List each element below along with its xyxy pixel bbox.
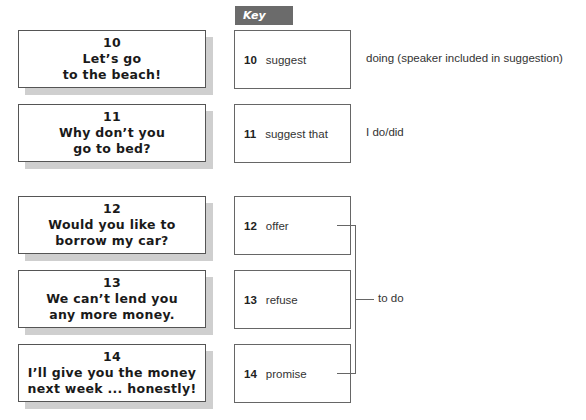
key-verb: promise [266,368,307,380]
card-number: 14 [103,349,121,365]
card-line: any more money. [49,307,175,323]
key-number: 12 [244,220,257,232]
key-item-11: 11 suggest that [234,104,351,163]
card-line: to the beach! [63,67,161,83]
key-verb: suggest [266,54,306,66]
key-number: 11 [244,128,256,140]
key-item-10: 10 suggest [234,30,351,89]
key-number: 10 [244,54,257,66]
note-11: I do/did [366,126,404,138]
note-10: doing (speaker included in suggestion) [366,52,563,64]
card-line: next week ... honestly! [28,381,197,397]
card-number: 13 [103,275,121,291]
key-number: 14 [244,368,257,380]
speech-card-13: 13 We can’t lend you any more money. [18,270,206,328]
card-number: 10 [103,35,121,51]
speech-card-12: 12 Would you like to borrow my car? [18,196,206,254]
speech-card-14: 14 I’ll give you the money next week ...… [18,344,206,402]
key-item-14: 14 promise [234,344,351,403]
key-verb: suggest that [265,128,328,140]
key-item-12: 12 offer [234,196,351,255]
note-group: to do [378,292,404,304]
card-line: Let’s go [83,51,142,67]
card-line: borrow my car? [55,233,168,249]
key-item-13: 13 refuse [234,270,351,329]
card-line: Would you like to [48,217,175,233]
speech-card-10: 10 Let’s go to the beach! [18,30,206,88]
key-number: 13 [244,294,257,306]
card-line: go to bed? [73,141,150,157]
card-number: 12 [103,201,121,217]
key-label: Key [235,6,293,25]
key-verb: refuse [266,294,298,306]
card-line: We can’t lend you [46,291,178,307]
key-verb: offer [266,220,289,232]
card-number: 11 [103,109,121,125]
card-line: I’ll give you the money [28,365,196,381]
speech-card-11: 11 Why don’t you go to bed? [18,104,206,162]
card-line: Why don’t you [59,125,165,141]
